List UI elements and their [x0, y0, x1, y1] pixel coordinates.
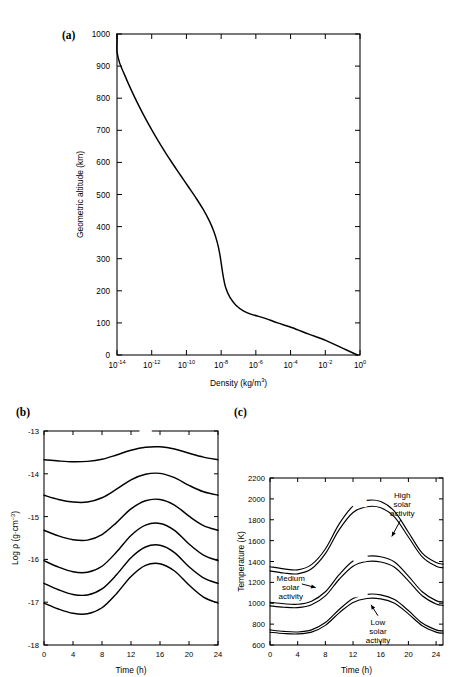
panel-a-ytick-label: 800	[96, 94, 110, 103]
panel-c-ytick-label: 1400	[248, 558, 265, 567]
panel-c-annotation-low: Lowsolaractivity	[366, 618, 390, 645]
panel-c-ytick-label: 1800	[248, 516, 265, 525]
panel-c-ytick-label: 2000	[248, 495, 265, 504]
panel-b-legend-header: km	[140, 424, 151, 433]
panel-c-chart: (c)0481216202460080010001200140016001800…	[230, 400, 454, 677]
panel-b-xtick-label: 12	[127, 650, 135, 659]
panel-c-curve-label-low-300: 300	[353, 589, 367, 598]
panel-a-xtick-label: 100	[354, 359, 366, 370]
panel-a-xtick-label: 10-6	[249, 359, 263, 370]
panel-b-ytick-label: -16	[28, 555, 39, 564]
panel-c-legend-header: km	[355, 481, 366, 490]
panel-b-yaxis-title: Log ρ (g·cm−3)	[10, 511, 21, 565]
panel-c-annotation-medium: Mediumsolaractivity	[277, 574, 306, 601]
panel-b-ytick-label: -14	[28, 470, 39, 479]
panel-c-arrow-low-head	[371, 605, 375, 610]
panel-a-ytick-label: 200	[96, 287, 110, 296]
panel-b-tag: (b)	[16, 406, 30, 419]
panel-b-curve-label-500: 500	[139, 489, 153, 498]
panel-a-xtick-label: 10-10	[178, 359, 195, 370]
panel-c-xaxis-title: Time (h)	[341, 665, 372, 675]
panel-b-chart: (b)04812162024-18-17-16-15-14-13Time (h)…	[0, 400, 232, 677]
panel-c-xtick-label: 24	[432, 650, 440, 659]
panel-a-ytick-label: 400	[96, 223, 110, 232]
panel-a-group: (a)10-1410-1210-1010-810-610-410-2100010…	[62, 29, 366, 388]
panel-a-xtick-label: 10-4	[284, 359, 298, 370]
panel-b-xtick-label: 20	[185, 650, 193, 659]
panel-c-xtick-label: 20	[404, 650, 412, 659]
panel-c-ytick-label: 1200	[248, 578, 265, 587]
panel-a-ytick-label: 100	[96, 319, 110, 328]
panel-c-annotation-high: Highsolaractivity	[390, 491, 414, 518]
panel-b-curve-label-800: 800	[139, 553, 153, 562]
figure-root: (a)10-1410-1210-1010-810-610-410-2100010…	[0, 0, 454, 677]
panel-c-yaxis-title: Temperature (K)	[236, 531, 246, 592]
panel-c-curve-label-high-300: 300	[353, 499, 367, 508]
panel-b-curve-label-600: 600	[139, 513, 153, 522]
panel-b-curve-300	[44, 447, 218, 462]
panel-b-xtick-label: 16	[156, 650, 164, 659]
panel-b-xaxis-title: Time (h)	[116, 665, 147, 675]
panel-a-xaxis-title: Density (kg/m3)	[210, 377, 267, 388]
panel-b-curve-label-400: 400	[139, 462, 153, 471]
panel-c-xtick-label: 16	[376, 650, 384, 659]
panel-a-xtick-label: 10-8	[214, 359, 228, 370]
panel-b-group: (b)04812162024-18-17-16-15-14-13Time (h)…	[10, 406, 223, 675]
panel-a-chart: (a)10-1410-1210-1010-810-610-410-2100010…	[0, 0, 454, 400]
panel-c-xtick-label: 4	[296, 650, 300, 659]
panel-a-density-curve	[117, 34, 358, 355]
panel-c-tag: (c)	[234, 406, 247, 419]
panel-c-group: (c)0481216202460080010001200140016001800…	[234, 406, 443, 675]
panel-a-yaxis-title: Geometric altitude (km)	[75, 151, 85, 238]
panel-b-curve-500	[44, 499, 218, 540]
panel-c-ytick-label: 2200	[248, 474, 265, 483]
panel-b-xtick-label: 4	[71, 650, 75, 659]
panel-b-ytick-label: -15	[28, 513, 39, 522]
panel-a-ytick-label: 500	[96, 191, 110, 200]
panel-c-curve-low-300	[270, 598, 443, 634]
panel-c-xtick-label: 8	[323, 650, 327, 659]
panel-a-xtick-label: 10-14	[108, 359, 125, 370]
panel-b-ytick-label: -18	[28, 641, 39, 650]
panel-b-curve-label-700: 700	[139, 535, 153, 544]
panel-b-ytick-label: -17	[28, 598, 39, 607]
panel-a-xtick-label: 10-2	[318, 359, 332, 370]
panel-a-ytick-label: 700	[96, 126, 110, 135]
panel-a-tag: (a)	[62, 29, 76, 42]
panel-b-ytick-label: -13	[28, 427, 39, 436]
panel-a-ytick-label: 600	[96, 158, 110, 167]
panel-b-curve-label-300: 300	[139, 435, 153, 444]
panel-a-xtick-label: 10-12	[143, 359, 160, 370]
panel-a-ytick-label: 1000	[92, 30, 111, 39]
panel-b-curve-400	[44, 473, 218, 502]
panel-c-ytick-label: 800	[252, 620, 265, 629]
panel-b-xtick-label: 24	[214, 650, 222, 659]
panel-b-xtick-label: 8	[100, 650, 104, 659]
panel-a-ytick-label: 0	[105, 351, 110, 360]
panel-c-ytick-label: 1000	[248, 599, 265, 608]
panel-c-curve-label-medium-300: 300	[353, 553, 367, 562]
panel-b-curve-600	[44, 523, 218, 573]
panel-a-ytick-label: 900	[96, 62, 110, 71]
panel-c-ytick-label: 1600	[248, 537, 265, 546]
panel-a-ytick-label: 300	[96, 255, 110, 264]
panel-c-ytick-label: 600	[252, 641, 265, 650]
panel-b-xtick-label: 0	[42, 650, 46, 659]
panel-c-xtick-label: 12	[349, 650, 357, 659]
panel-c-xtick-label: 0	[268, 650, 272, 659]
